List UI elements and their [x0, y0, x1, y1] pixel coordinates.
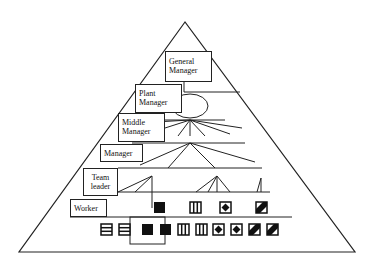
- pyramid-diagram: [0, 0, 371, 267]
- plant-manager-box: Plant Manager: [135, 84, 182, 113]
- bottom-symbols: [101, 224, 278, 235]
- manager-box: Manager: [100, 144, 143, 162]
- worker-symbols: [83, 202, 267, 213]
- general-manager-box: General Manager: [165, 51, 212, 82]
- worker-box: Worker: [70, 199, 107, 217]
- team-leader-box: Team leader: [83, 168, 118, 196]
- middle-manager-box: Middle Manager: [118, 113, 165, 142]
